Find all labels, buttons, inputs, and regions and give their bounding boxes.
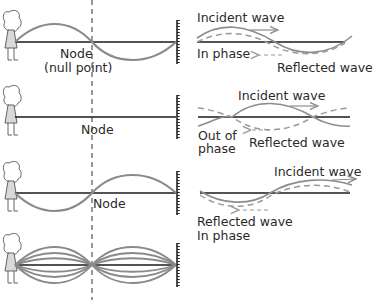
reflected-wave: [200, 185, 350, 206]
incident-wave-label: Incident wave: [197, 10, 285, 25]
incident-arrow-icon: [332, 179, 356, 180]
incident-wave: [198, 103, 350, 126]
phase-label-line2: phase: [198, 141, 236, 156]
node-label: Node: [81, 122, 114, 137]
node-label: Node: [93, 196, 126, 211]
row-3-left: Node: [3, 161, 178, 215]
standing-wave-diagram: Node (null point) Incident wave In phase…: [0, 0, 380, 307]
wall-icon: [177, 171, 179, 215]
row-2-right: Incident wave Out of phase Reflected wav…: [198, 88, 350, 156]
reflected-wave-label: Reflected wave: [197, 214, 293, 229]
girl-icon: [3, 161, 21, 211]
reflected-wave-label: Reflected wave: [277, 60, 373, 75]
wall-icon: [177, 243, 179, 287]
phase-label: In phase: [197, 46, 251, 61]
girl-icon: [3, 85, 21, 135]
row-2-left: Node: [3, 85, 178, 139]
incident-wave-label: Incident wave: [274, 164, 362, 179]
row-3-right: Incident wave Reflected wave In phase: [197, 164, 362, 243]
null-point-label: (null point): [44, 60, 112, 75]
wall-icon: [177, 95, 179, 139]
wall-icon: [177, 20, 179, 64]
reflected-wave: [198, 108, 350, 130]
reflected-wave-label: Reflected wave: [249, 135, 345, 150]
incident-wave: [200, 180, 352, 202]
phase-label: In phase: [197, 228, 251, 243]
row-1-right: Incident wave In phase Reflected wave: [197, 10, 373, 75]
node-label: Node: [60, 46, 93, 61]
row-1-left: Node (null point): [3, 10, 178, 75]
girl-icon: [3, 10, 21, 60]
row-4-left: [3, 233, 178, 287]
incident-wave-label: Incident wave: [238, 88, 326, 103]
girl-icon: [3, 233, 21, 283]
